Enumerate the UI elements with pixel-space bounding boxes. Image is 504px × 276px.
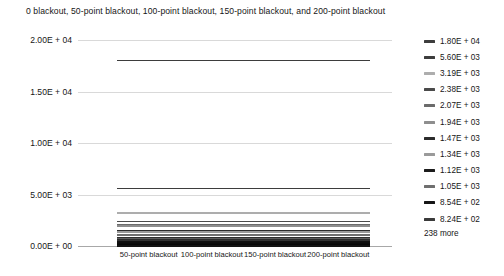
series-line (117, 245, 370, 246)
legend-label: 3.19E + 03 (440, 69, 480, 78)
series-line (117, 188, 370, 189)
y-tick-label: 2.00E + 04 (30, 35, 72, 45)
legend-item[interactable]: 5.60E + 03 (424, 49, 504, 65)
x-tick-label: 200-point blackout (307, 250, 369, 259)
x-tick-label: 100-point blackout (181, 250, 243, 259)
series-line (117, 221, 370, 222)
legend-label: 1.05E + 03 (440, 182, 480, 191)
legend-item[interactable]: 1.05E + 03 (424, 179, 504, 195)
x-tick-label: 50-point blackout (120, 250, 178, 259)
legend-item[interactable]: 1.12E + 03 (424, 163, 504, 179)
x-axis: 50-point blackout100-point blackout150-p… (78, 250, 392, 264)
legend-label: 8.54E + 02 (440, 198, 480, 207)
legend-swatch-icon (424, 104, 435, 107)
series-line (117, 231, 370, 232)
legend-item[interactable]: 8.54E + 02 (424, 195, 504, 211)
legend-swatch-icon (424, 169, 435, 172)
legend-label: 1.34E + 03 (440, 150, 480, 159)
legend-item[interactable]: 1.80E + 04 (424, 33, 504, 49)
y-tick-label: 1.00E + 04 (30, 138, 72, 148)
legend-swatch-icon (424, 88, 435, 91)
legend-items: 1.80E + 045.60E + 033.19E + 032.38E + 03… (424, 33, 504, 227)
y-tick-label: 5.00E + 03 (30, 190, 72, 200)
y-tick-label: 0.00E + 00 (30, 241, 72, 251)
series-line (117, 60, 370, 61)
legend-item[interactable]: 8.24E + 02 (424, 211, 504, 227)
legend-label: 2.38E + 03 (440, 85, 480, 94)
legend-label: 1.80E + 04 (440, 37, 480, 46)
legend-swatch-icon (424, 121, 435, 124)
y-tick-label: 1.50E + 04 (30, 87, 72, 97)
chart-title: 0 blackout, 50-point blackout, 100-point… (26, 6, 385, 17)
legend-label: 1.12E + 03 (440, 166, 480, 175)
legend-swatch-icon (424, 40, 435, 43)
chart-container: 0 blackout, 50-point blackout, 100-point… (0, 0, 504, 276)
legend-swatch-icon (424, 218, 435, 221)
legend-more-label[interactable]: 238 more (424, 229, 504, 238)
legend-item[interactable]: 2.07E + 03 (424, 98, 504, 114)
legend-item[interactable]: 1.47E + 03 (424, 130, 504, 146)
legend-label: 2.07E + 03 (440, 101, 480, 110)
series-line (117, 225, 370, 226)
series-lines (78, 40, 392, 246)
legend-swatch-icon (424, 137, 435, 140)
legend-item[interactable]: 3.19E + 03 (424, 65, 504, 81)
y-axis: 0.00E + 005.00E + 031.00E + 041.50E + 04… (0, 40, 72, 246)
legend-swatch-icon (424, 72, 435, 75)
legend-item[interactable]: 1.94E + 03 (424, 114, 504, 130)
legend-swatch-icon (424, 201, 435, 204)
legend-label: 8.24E + 02 (440, 215, 480, 224)
legend-swatch-icon (424, 185, 435, 188)
legend-label: 1.94E + 03 (440, 118, 480, 127)
series-line (117, 212, 370, 213)
legend-label: 1.47E + 03 (440, 134, 480, 143)
legend-item[interactable]: 2.38E + 03 (424, 82, 504, 98)
legend-item[interactable]: 1.34E + 03 (424, 146, 504, 162)
legend-label: 5.60E + 03 (440, 53, 480, 62)
chart-legend: 1.80E + 045.60E + 033.19E + 032.38E + 03… (424, 33, 504, 238)
legend-swatch-icon (424, 56, 435, 59)
legend-swatch-icon (424, 153, 435, 156)
x-tick-label: 150-point blackout (244, 250, 306, 259)
plot-area (78, 40, 392, 246)
